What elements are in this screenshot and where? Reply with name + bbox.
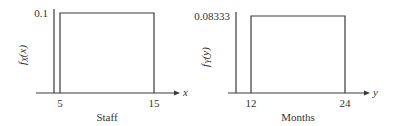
x-tick-label: 24 <box>340 97 352 109</box>
density-line <box>251 16 345 93</box>
axis-variable-label: y <box>372 86 378 98</box>
axis-variable-label: x <box>182 86 188 98</box>
x-tick-label: 5 <box>57 97 63 109</box>
y-axis-title-arg: (y) <box>199 47 212 60</box>
y-axis-title: fY(y) <box>199 47 213 67</box>
x-tick-label: 12 <box>246 97 257 109</box>
panel-staff: 0.1 5 15 x Staff fX(x) <box>16 7 188 123</box>
x-axis-title: Staff <box>96 111 118 123</box>
y-tick-label: 0.1 <box>34 7 48 19</box>
chart-canvas: 0.1 5 15 x Staff fX(x) 0.08333 12 24 y M… <box>0 0 393 126</box>
y-axis-title-arg: (x) <box>16 45 29 58</box>
y-axis-title: fX(x) <box>16 45 30 65</box>
x-axis-arrow-icon <box>364 91 370 96</box>
x-axis-arrow-icon <box>174 91 180 96</box>
density-line <box>60 13 154 93</box>
x-axis-title: Months <box>281 111 315 123</box>
panel-months: 0.08333 12 24 y Months fY(y) <box>194 10 378 123</box>
x-tick-label: 15 <box>149 97 161 109</box>
y-tick-label: 0.08333 <box>194 10 230 22</box>
